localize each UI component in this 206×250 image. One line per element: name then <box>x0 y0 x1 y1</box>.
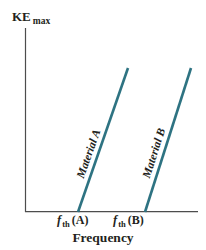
y-axis-label-subscript: max <box>31 16 50 26</box>
y-axis-label-text: KE <box>12 9 31 24</box>
x-tick-label-b: fth(B) <box>113 214 144 229</box>
x-tick-a-material: (A) <box>70 213 89 227</box>
x-tick-label-a: fth(A) <box>57 214 88 229</box>
x-tick-b-material: (B) <box>126 213 144 227</box>
x-tick-b-subscript: th <box>117 219 126 229</box>
chart-canvas <box>0 0 206 250</box>
x-axis-label: Frequency <box>0 231 206 245</box>
x-tick-a-subscript: th <box>61 219 70 229</box>
y-axis-label: KEmax <box>12 10 50 27</box>
photoelectric-effect-chart: KEmax fth(A) fth(B) Frequency Material A… <box>0 0 206 250</box>
